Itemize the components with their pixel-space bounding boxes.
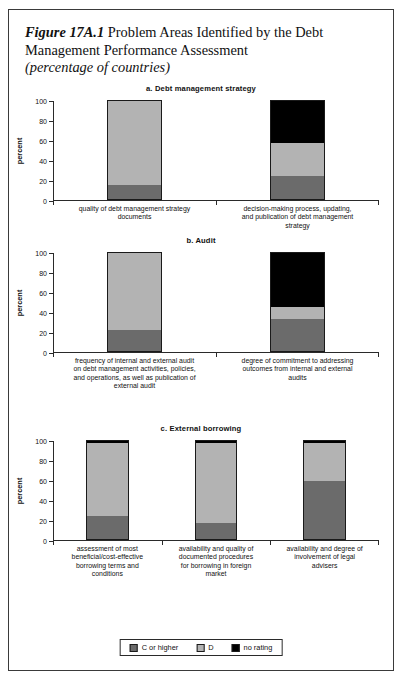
legend-label: C or higher (142, 643, 179, 652)
plot-area-c: 020406080100percentassessment of most be… (9, 441, 393, 601)
y-tick (49, 121, 53, 122)
x-category-label: availability and quality of documented p… (176, 545, 256, 579)
y-tick-label: 0 (43, 350, 47, 357)
stacked-bar (107, 252, 162, 352)
axes-b: 020406080100percent (53, 253, 379, 353)
bar-segment-d (107, 252, 162, 330)
bar-segment-c-or-higher (270, 319, 325, 352)
legend-swatch-c-or-higher (130, 644, 138, 652)
plot-area-b: 020406080100percentfrequency of internal… (9, 253, 393, 413)
bar-segment-d (107, 100, 162, 185)
y-tick-label: 100 (35, 250, 47, 257)
y-tick-label: 80 (39, 118, 47, 125)
figure-title: Figure 17A.1 Problem Areas Identified by… (9, 10, 393, 77)
x-axis-labels-b: frequency of internal and external audit… (53, 357, 379, 411)
legend-swatch-no-rating (232, 644, 240, 652)
y-axis-label-c: percent (15, 478, 24, 505)
figure-frame: Figure 17A.1 Problem Areas Identified by… (8, 9, 394, 671)
legend-item: D (196, 643, 213, 652)
y-tick-label: 40 (39, 498, 47, 505)
y-tick-label: 0 (43, 538, 47, 545)
y-tick-label: 0 (43, 198, 47, 205)
y-tick (49, 273, 53, 274)
stacked-bar (107, 100, 162, 200)
bar-segment-c-or-higher (195, 523, 237, 540)
chart-title-b: b. Audit (9, 236, 393, 245)
axes-a: 020406080100percent (53, 101, 379, 201)
stacked-bar (270, 252, 325, 352)
y-axis-line (53, 101, 54, 201)
chart-panel-a: a. Debt management strategy020406080100p… (9, 84, 393, 261)
legend-label: D (208, 643, 213, 652)
bar-segment-d (270, 307, 325, 319)
legend-item: C or higher (130, 643, 179, 652)
y-tick (49, 333, 53, 334)
y-tick-label: 60 (39, 478, 47, 485)
bar-segment-no-rating (303, 440, 345, 443)
y-tick-label: 80 (39, 270, 47, 277)
legend-label: no rating (244, 643, 273, 652)
figure-number: Figure 17A.1 (25, 24, 104, 40)
legend-swatch-d (196, 644, 204, 652)
y-tick (49, 161, 53, 162)
x-axis-line (53, 540, 379, 541)
y-tick (49, 101, 53, 102)
bar-segment-no-rating (86, 440, 128, 443)
bar-segment-c-or-higher (86, 516, 128, 540)
bar-segment-c-or-higher (107, 330, 162, 352)
y-tick (49, 313, 53, 314)
y-tick-label: 20 (39, 518, 47, 525)
stacked-bar (195, 440, 237, 540)
y-tick (49, 521, 53, 522)
y-tick (49, 181, 53, 182)
y-tick-label: 40 (39, 158, 47, 165)
legend-item: no rating (232, 643, 273, 652)
y-tick-label: 20 (39, 330, 47, 337)
y-tick-label: 20 (39, 178, 47, 185)
x-category-label: assessment of most beneficial/cost-effec… (64, 545, 150, 579)
y-axis-label-a: percent (15, 138, 24, 165)
y-tick (49, 441, 53, 442)
y-axis-label-b: percent (15, 290, 24, 317)
figure-subtitle: (percentage of countries) (25, 59, 170, 75)
y-tick-label: 60 (39, 138, 47, 145)
bar-segment-c-or-higher (303, 481, 345, 540)
x-category-label: availability and degree of involvement o… (285, 545, 365, 570)
x-category-label: decision-making process, updating, and p… (239, 205, 357, 230)
bar-segment-c-or-higher (270, 176, 325, 200)
bar-segment-c-or-higher (107, 185, 162, 200)
chart-panel-b: b. Audit020406080100percentfrequency of … (9, 236, 393, 413)
stacked-bar (86, 440, 128, 540)
y-tick (49, 461, 53, 462)
y-tick-label: 40 (39, 310, 47, 317)
y-tick-label: 80 (39, 458, 47, 465)
y-axis-line (53, 253, 54, 353)
x-category-label: quality of debt management strategy docu… (76, 205, 194, 222)
bar-segment-d (86, 443, 128, 516)
axes-c: 020406080100percent (53, 441, 379, 541)
chart-title-c: c. External borrowing (9, 424, 393, 433)
y-tick (49, 481, 53, 482)
y-tick (49, 141, 53, 142)
y-axis-line (53, 441, 54, 541)
stacked-bar (303, 440, 345, 540)
chart-title-a: a. Debt management strategy (9, 84, 393, 93)
x-category-label: degree of commitment to addressing outco… (239, 357, 357, 382)
stacked-bar (270, 100, 325, 200)
x-category-label: frequency of internal and external audit… (71, 357, 199, 391)
y-tick (49, 501, 53, 502)
y-tick-label: 100 (35, 98, 47, 105)
bar-segment-no-rating (270, 252, 325, 307)
bar-segment-d (195, 443, 237, 523)
bar-segment-no-rating (195, 440, 237, 443)
bar-segment-d (270, 143, 325, 176)
x-axis-labels-c: assessment of most beneficial/cost-effec… (53, 545, 379, 599)
bar-segment-d (303, 443, 345, 481)
y-tick-label: 60 (39, 290, 47, 297)
bar-segment-no-rating (270, 100, 325, 143)
y-tick (49, 253, 53, 254)
chart-legend: C or higherDno rating (120, 639, 283, 656)
y-tick-label: 100 (35, 438, 47, 445)
chart-panel-c: c. External borrowing020406080100percent… (9, 424, 393, 601)
y-tick (49, 293, 53, 294)
